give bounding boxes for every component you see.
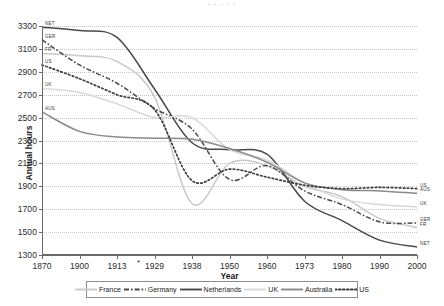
x-tick-label: 1900 <box>70 261 89 271</box>
legend: FranceGermanyNetherlandsUKAustraliaUS <box>86 281 358 298</box>
x-tick-mark <box>305 255 306 259</box>
x-tick-mark <box>342 255 343 259</box>
legend-item-netherlands[interactable]: Netherlands <box>180 286 242 293</box>
legend-label: UK <box>268 286 278 293</box>
legend-swatch <box>124 286 146 293</box>
series-endpoint-label: UK <box>420 200 427 205</box>
x-tick-mark <box>42 255 43 259</box>
x-tick-mark <box>230 255 231 259</box>
y-axis-label: Annual hours <box>24 126 34 181</box>
x-tick-mark <box>267 255 268 259</box>
y-tick-label: 1700 <box>18 204 37 214</box>
y-tick-label: 1500 <box>18 227 37 237</box>
annual-hours-line-chart: · · · · · Annual hours Year 330031002900… <box>0 0 444 306</box>
x-axis-label: Year <box>42 271 417 281</box>
x-tick-label: 1960 <box>258 261 277 271</box>
series-endpoint-label: FR <box>420 221 426 226</box>
x-tick-label: 1913 <box>108 261 127 271</box>
x-tick-mark <box>380 255 381 259</box>
x-tick-label: 1929 <box>145 261 164 271</box>
clipped-top-text: · · · · · <box>0 0 444 9</box>
legend-item-germany[interactable]: Germany <box>124 286 177 293</box>
footnote-asterisk: * <box>137 258 140 267</box>
legend-swatch <box>75 286 97 293</box>
x-tick-mark <box>155 255 156 259</box>
y-tick-label: 3300 <box>18 21 37 31</box>
legend-item-australia[interactable]: Australia <box>281 286 332 293</box>
legend-item-france[interactable]: France <box>75 286 121 293</box>
y-tick-label: 2300 <box>18 136 37 146</box>
series-endpoint-label: NET <box>45 21 55 26</box>
y-tick-label: 2100 <box>18 158 37 168</box>
legend-label: Netherlands <box>204 286 242 293</box>
legend-label: France <box>99 286 121 293</box>
legend-swatch <box>335 286 357 293</box>
legend-label: US <box>359 286 369 293</box>
x-tick-label: 1870 <box>33 261 52 271</box>
legend-item-uk[interactable]: UK <box>244 286 278 293</box>
x-tick-mark <box>117 255 118 259</box>
y-tick-label: 1300 <box>18 250 37 260</box>
x-tick-mark <box>417 255 418 259</box>
legend-swatch <box>281 286 303 293</box>
x-tick-label: 1950 <box>220 261 239 271</box>
legend-label: Australia <box>305 286 332 293</box>
y-tick-label: 2500 <box>18 113 37 123</box>
y-tick-label: 2700 <box>18 90 37 100</box>
x-tick-label: 1973 <box>295 261 314 271</box>
plot-area: 3300310029002700250023002100190017001500… <box>42 26 417 255</box>
x-tick-label: 1980 <box>333 261 352 271</box>
x-tick-mark <box>192 255 193 259</box>
y-tick-label: 1900 <box>18 181 37 191</box>
y-tick-label: 2900 <box>18 67 37 77</box>
legend-swatch <box>180 286 202 293</box>
legend-swatch <box>244 286 266 293</box>
x-tick-mark <box>80 255 81 259</box>
series-endpoint-label: NET <box>420 240 430 245</box>
x-tick-label: 2000 <box>408 261 427 271</box>
y-tick-label: 3100 <box>18 44 37 54</box>
plot-frame <box>42 26 417 255</box>
legend-label: Germany <box>148 286 177 293</box>
series-endpoint-label: AUS <box>420 187 430 192</box>
x-tick-label: 1990 <box>370 261 389 271</box>
legend-item-us[interactable]: US <box>335 286 369 293</box>
x-tick-label: 1938 <box>183 261 202 271</box>
